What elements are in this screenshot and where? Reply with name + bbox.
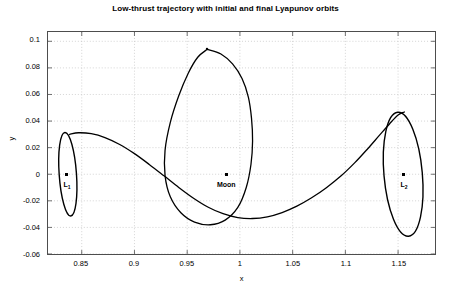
moon-label-text: Moon (217, 181, 236, 188)
l1-label-subscript: 1 (68, 184, 71, 190)
l1-marker-dot (65, 173, 68, 176)
moon-label: Moon (214, 181, 238, 188)
x-tick-label: 1 (220, 259, 260, 268)
chart-title: Low-thrust trajectory with initial and f… (0, 4, 451, 13)
data-layer (48, 32, 435, 254)
x-tick-label: 0.95 (167, 259, 207, 268)
trajectory-path (70, 112, 405, 219)
y-axis-label: y (7, 124, 16, 154)
x-axis-label: x (47, 274, 436, 283)
y-tick-label: -0.06 (0, 250, 40, 259)
l2-marker-dot (402, 173, 405, 176)
y-tick-label: 0 (0, 170, 40, 179)
l2-label-subscript: 2 (405, 184, 408, 190)
plot-area (47, 31, 436, 255)
x-tick-label: 0.9 (114, 259, 154, 268)
l2-label: L2 (398, 181, 410, 190)
l1-label: L1 (61, 181, 73, 190)
y-tick-label: 0.1 (0, 35, 40, 44)
x-tick-label: 0.85 (61, 259, 101, 268)
x-tick-label: 1.15 (379, 259, 419, 268)
y-tick-label: -0.04 (0, 223, 40, 232)
x-tick-label: 1.1 (326, 259, 366, 268)
y-tick-label: 0.06 (0, 89, 40, 98)
figure-canvas: Low-thrust trajectory with initial and f… (0, 0, 451, 295)
moon-marker-dot (225, 173, 228, 176)
trajectory-path (164, 48, 252, 224)
y-tick-label: 0.08 (0, 62, 40, 71)
x-tick-label: 1.05 (273, 259, 313, 268)
y-tick-label: -0.02 (0, 196, 40, 205)
